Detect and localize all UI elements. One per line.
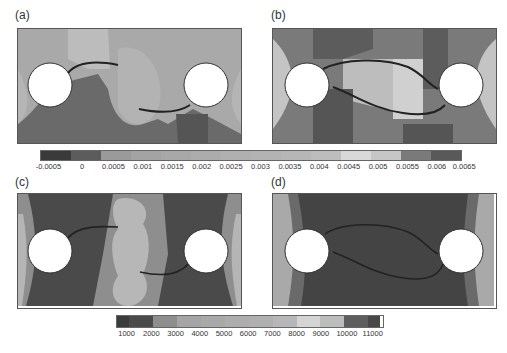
contour-plot-a — [18, 29, 241, 143]
colorbar-stress — [116, 315, 384, 328]
panel-label-c: (c) — [15, 175, 29, 189]
tick: 0.0055 — [396, 162, 419, 171]
contour-plot-b — [273, 29, 496, 143]
tick: 7000 — [264, 329, 281, 338]
panel-label-d: (d) — [271, 175, 286, 189]
contour-panel-c — [17, 193, 242, 309]
tick: 0 — [80, 162, 84, 171]
tick: 1000 — [118, 329, 135, 338]
tick: 3000 — [167, 329, 184, 338]
tick: 6000 — [240, 329, 257, 338]
tick: 2000 — [143, 329, 160, 338]
tick: 0.005 — [369, 162, 388, 171]
tick: 0.0045 — [337, 162, 360, 171]
tick: 4000 — [191, 329, 208, 338]
panel-label-a: (a) — [15, 8, 30, 22]
tick: 0.003 — [251, 162, 270, 171]
tick: 0.001 — [134, 162, 153, 171]
tick: 8000 — [288, 329, 305, 338]
contour-panel-b — [272, 28, 497, 144]
tick: 0.002 — [192, 162, 211, 171]
contour-plot-c — [18, 194, 241, 306]
panel-label-b: (b) — [271, 8, 286, 22]
tick: 5000 — [216, 329, 233, 338]
tick: 0.0015 — [161, 162, 184, 171]
tick: -0.0005 — [36, 162, 61, 171]
tick: 0.0005 — [102, 162, 125, 171]
tick: 0.006 — [428, 162, 447, 171]
tick: 0.004 — [310, 162, 329, 171]
tick: 0.0065 — [453, 162, 476, 171]
tick: 10000 — [336, 329, 357, 338]
contour-panel-d — [272, 193, 497, 309]
contour-panel-a — [17, 28, 242, 144]
tick: 9000 — [312, 329, 329, 338]
tick: 0.0035 — [278, 162, 301, 171]
colorbar-strain — [40, 150, 462, 161]
tick: 0.0025 — [220, 162, 243, 171]
contour-plot-d — [273, 194, 494, 306]
tick: 11000 — [363, 329, 383, 338]
